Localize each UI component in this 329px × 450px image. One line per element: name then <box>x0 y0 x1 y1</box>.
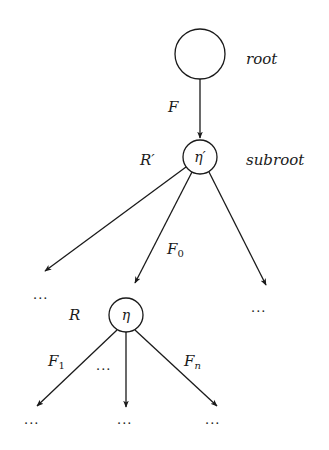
edge-subroot-left <box>45 167 186 271</box>
ellipsis-eta-middle-gap: ··· <box>96 362 111 377</box>
edge-label-Fn: Fn <box>183 352 201 371</box>
root-circle <box>175 29 225 79</box>
edge-eta-right <box>135 330 217 406</box>
edge-subroot-right <box>209 172 266 285</box>
edge-label-F: F <box>167 98 179 116</box>
subroot-annotation: subroot <box>246 151 305 169</box>
ellipsis-subroot-right: ··· <box>251 304 266 319</box>
eta-label: η <box>122 307 131 323</box>
root-node <box>175 29 225 79</box>
eta-side-label: R <box>68 306 80 324</box>
edge-subroot-to-eta <box>135 172 192 283</box>
ellipsis-eta-child-middle: ··· <box>117 416 132 431</box>
ellipsis-eta-child-left: ··· <box>24 416 39 431</box>
root-annotation: root <box>246 50 278 68</box>
ellipsis-subroot-left: ··· <box>33 291 48 306</box>
subroot-label: η′ <box>194 149 206 165</box>
edge-label-F1: F1 <box>47 352 65 371</box>
tree-diagram: root F η′ R′ subroot F0 ··· ··· η R F1 F… <box>0 0 329 450</box>
subroot-node: η′ <box>183 140 217 174</box>
eta-node: η <box>109 298 143 332</box>
edge-label-F0: F0 <box>166 240 184 259</box>
ellipsis-eta-child-right: ··· <box>205 416 220 431</box>
subroot-side-label: R′ <box>139 151 155 169</box>
